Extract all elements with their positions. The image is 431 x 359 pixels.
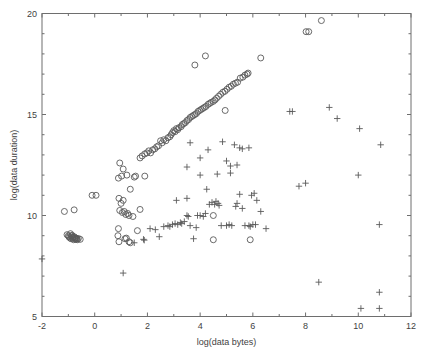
data-point-plus	[239, 205, 245, 211]
data-point-plus	[184, 195, 190, 201]
data-point-circle	[71, 207, 77, 213]
x-axis-ticks	[42, 14, 411, 317]
data-point-plus	[193, 224, 199, 230]
data-point-plus	[356, 125, 362, 131]
data-point-plus	[227, 163, 233, 169]
data-point-circle	[117, 160, 123, 166]
data-point-plus	[141, 237, 147, 243]
y-tick-label: 10	[27, 211, 37, 221]
data-point-plus	[39, 256, 45, 262]
data-point-plus	[187, 222, 193, 228]
data-point-plus	[234, 200, 240, 206]
data-point-plus	[377, 142, 383, 148]
data-point-plus	[263, 225, 269, 231]
data-point-plus	[219, 139, 225, 145]
data-point-circle	[142, 173, 148, 179]
x-tick-label: 4	[198, 321, 203, 331]
data-point-plus	[197, 155, 203, 161]
data-point-plus	[376, 221, 382, 227]
data-point-plus	[156, 234, 162, 240]
series-circles	[61, 18, 324, 246]
x-axis-title: log(data bytes)	[197, 337, 257, 347]
y-axis-title: log(data duration)	[9, 130, 19, 201]
x-tick-label: 10	[353, 321, 363, 331]
data-point-plus	[258, 208, 264, 214]
data-point-plus	[205, 147, 211, 153]
x-axis-tick-labels: -2024681012	[38, 321, 416, 331]
data-point-plus	[197, 172, 203, 178]
data-point-plus	[227, 170, 233, 176]
data-point-circle	[192, 62, 198, 68]
y-tick-label: 5	[32, 312, 37, 322]
series-plus	[39, 104, 384, 311]
data-point-plus	[376, 289, 382, 295]
data-point-plus	[190, 236, 196, 242]
x-tick-label: 8	[303, 321, 308, 331]
data-point-circle	[222, 107, 228, 113]
data-point-plus	[376, 305, 382, 311]
data-point-circle	[120, 166, 126, 172]
data-point-plus	[214, 171, 220, 177]
scatter-plot: -2024681012 5101520 log(data bytes) log(…	[0, 0, 431, 359]
data-point-circle	[61, 208, 67, 214]
data-point-circle	[116, 239, 122, 245]
x-tick-label: 12	[406, 321, 416, 331]
data-point-plus	[296, 183, 302, 189]
data-point-plus	[236, 191, 242, 197]
x-tick-label: -2	[38, 321, 46, 331]
y-tick-label: 20	[27, 9, 37, 19]
data-point-circle	[210, 237, 216, 243]
data-point-plus	[173, 197, 179, 203]
data-point-plus	[184, 164, 190, 170]
data-point-plus	[184, 212, 190, 218]
data-point-plus	[246, 222, 252, 228]
data-point-plus	[120, 270, 126, 276]
data-point-plus	[334, 115, 340, 121]
x-tick-label: 6	[250, 321, 255, 331]
plot-frame	[42, 14, 411, 317]
data-point-circle	[202, 53, 208, 59]
data-point-plus	[233, 203, 239, 209]
data-point-circle	[115, 226, 121, 232]
data-point-circle	[210, 213, 216, 219]
data-point-plus	[147, 225, 153, 231]
data-point-plus	[161, 223, 167, 229]
data-point-plus	[234, 162, 240, 168]
data-point-circle	[134, 228, 140, 234]
chart-figure: -2024681012 5101520 log(data bytes) log(…	[0, 0, 431, 359]
data-point-circle	[127, 186, 133, 192]
data-point-plus	[355, 172, 361, 178]
data-point-plus	[326, 104, 332, 110]
data-point-circle	[258, 55, 264, 61]
data-point-plus	[204, 186, 210, 192]
data-point-plus	[302, 180, 308, 186]
data-point-circle	[93, 192, 99, 198]
data-point-circle	[318, 18, 324, 24]
data-point-circle	[247, 237, 253, 243]
data-point-plus	[223, 158, 229, 164]
data-point-plus	[187, 140, 193, 146]
data-point-circle	[137, 206, 143, 212]
data-point-plus	[254, 197, 260, 203]
data-point-plus	[231, 142, 237, 148]
data-point-plus	[358, 305, 364, 311]
x-tick-label: 0	[92, 321, 97, 331]
data-point-plus	[140, 236, 146, 242]
data-point-plus	[152, 226, 158, 232]
data-point-plus	[316, 279, 322, 285]
data-point-circle	[115, 233, 121, 239]
data-point-circle	[130, 214, 136, 220]
data-point-plus	[185, 213, 191, 219]
y-axis-ticks	[42, 14, 411, 317]
y-axis-tick-labels: 5101520	[27, 9, 37, 322]
y-tick-label: 15	[27, 110, 37, 120]
data-point-plus	[246, 145, 252, 151]
x-tick-label: 2	[145, 321, 150, 331]
